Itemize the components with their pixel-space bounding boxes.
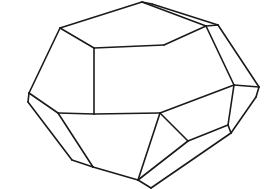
edge-F2-L bbox=[28, 102, 72, 160]
edge-E2-J bbox=[218, 25, 259, 87]
edge-J2-O2 bbox=[231, 97, 256, 133]
edge-O-O2 bbox=[228, 125, 231, 133]
edge-E-I bbox=[206, 26, 234, 85]
edge-D-E bbox=[164, 26, 206, 45]
edge-A-F bbox=[29, 28, 60, 93]
edge-A-B bbox=[60, 2, 142, 28]
edge-H-N bbox=[160, 113, 188, 141]
edge-K-G bbox=[58, 113, 94, 114]
edge-I-J bbox=[234, 85, 259, 87]
polyhedron-figure bbox=[0, 0, 269, 189]
edge-H-I bbox=[160, 85, 234, 113]
edge-B-E bbox=[142, 2, 206, 26]
edge-B2-E2 bbox=[152, 4, 218, 25]
edge-F-F2 bbox=[28, 93, 29, 102]
polyhedron-drawing bbox=[0, 0, 269, 189]
edge-G-H bbox=[94, 113, 160, 114]
edge-E-E2 bbox=[206, 25, 218, 26]
edge-J-J2 bbox=[256, 87, 259, 97]
edge-I-O bbox=[228, 85, 234, 125]
edge-A-C bbox=[60, 28, 94, 48]
edge-R-S bbox=[138, 180, 151, 188]
edge-C-D bbox=[94, 45, 164, 48]
edge-M-R bbox=[93, 167, 138, 180]
edge-H-R bbox=[138, 113, 160, 180]
edge-B-B2 bbox=[142, 2, 152, 4]
edge-K-M bbox=[58, 113, 93, 167]
edge-N-R bbox=[138, 141, 188, 180]
